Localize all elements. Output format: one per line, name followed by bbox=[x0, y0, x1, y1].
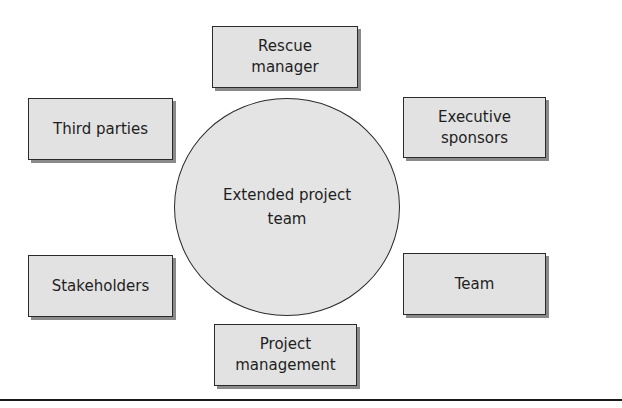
team-label: Team bbox=[455, 274, 495, 295]
executive-sponsors-label: Executive sponsors bbox=[438, 107, 511, 149]
third-parties-box: Third parties bbox=[28, 98, 173, 160]
stakeholders-box: Stakeholders bbox=[28, 255, 173, 317]
bottom-rule-divider bbox=[0, 399, 622, 401]
rescue-manager-box: Rescue manager bbox=[212, 26, 358, 88]
stakeholders-label: Stakeholders bbox=[52, 276, 150, 297]
executive-sponsors-box: Executive sponsors bbox=[403, 97, 546, 158]
diagram-canvas: Extended project team Rescue manager Exe… bbox=[0, 0, 622, 408]
team-box: Team bbox=[403, 253, 546, 315]
rescue-manager-label: Rescue manager bbox=[251, 36, 318, 78]
center-label: Extended project team bbox=[223, 183, 351, 231]
project-management-box: Project management bbox=[214, 324, 357, 386]
extended-project-team-circle: Extended project team bbox=[174, 98, 400, 316]
project-management-label: Project management bbox=[235, 334, 335, 376]
third-parties-label: Third parties bbox=[53, 119, 148, 140]
